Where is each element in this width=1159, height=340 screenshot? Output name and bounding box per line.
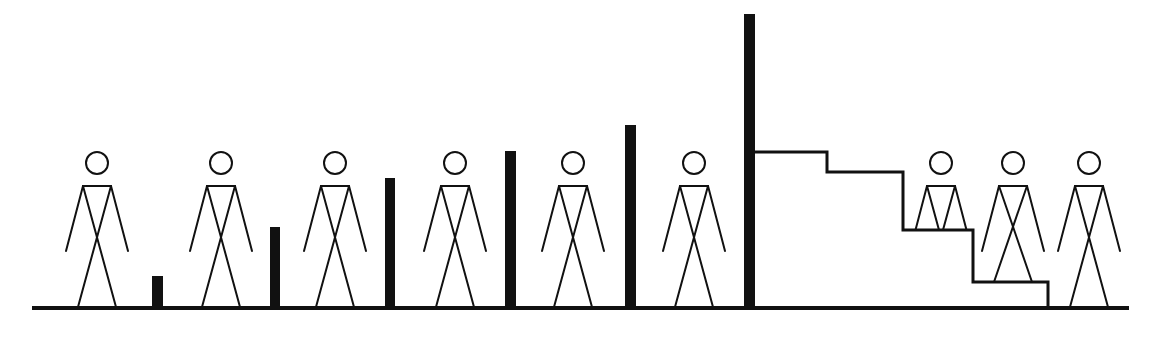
left-arm xyxy=(1058,186,1075,251)
head-icon xyxy=(1078,152,1100,174)
right-arm xyxy=(469,186,486,251)
leg-b xyxy=(436,186,469,307)
left-arm xyxy=(910,186,927,251)
leg-a xyxy=(441,186,474,307)
left-arm xyxy=(190,186,207,251)
left-arm xyxy=(66,186,83,251)
leg-b xyxy=(202,186,235,307)
height-bars xyxy=(152,14,755,308)
right-arm xyxy=(1027,186,1044,251)
right-arm xyxy=(955,186,972,251)
right-arm xyxy=(587,186,604,251)
left-arm xyxy=(304,186,321,251)
leg-a xyxy=(1075,186,1108,307)
left-arm xyxy=(424,186,441,251)
right-arm xyxy=(349,186,366,251)
bar-5 xyxy=(625,125,636,308)
leg-b xyxy=(78,186,111,307)
leg-a xyxy=(559,186,592,307)
head-icon xyxy=(210,152,232,174)
right-arm xyxy=(235,186,252,251)
left-arm xyxy=(663,186,680,251)
leg-a xyxy=(927,186,960,307)
head-icon xyxy=(930,152,952,174)
bar-1 xyxy=(152,276,163,308)
leg-b xyxy=(994,186,1027,282)
left-arm xyxy=(982,186,999,251)
leg-a xyxy=(999,186,1032,282)
left-arm xyxy=(542,186,559,251)
leg-b xyxy=(922,186,955,307)
right-arm xyxy=(708,186,725,251)
leg-a xyxy=(207,186,240,307)
head-icon xyxy=(562,152,584,174)
stick-figure-6 xyxy=(663,152,725,307)
staircase xyxy=(755,152,1048,308)
bar-2 xyxy=(270,227,280,308)
stick-figure-9 xyxy=(1058,152,1120,307)
stick-figure-4 xyxy=(424,152,486,307)
head-icon xyxy=(444,152,466,174)
head-icon xyxy=(1002,152,1024,174)
bar-3 xyxy=(385,178,395,308)
stick-figure-1 xyxy=(66,152,128,307)
leg-b xyxy=(316,186,349,307)
stick-figure-2 xyxy=(190,152,252,307)
leg-b xyxy=(554,186,587,307)
right-arm xyxy=(111,186,128,251)
leg-a xyxy=(83,186,116,307)
stick-figure-5 xyxy=(542,152,604,307)
diagram-stage xyxy=(0,0,1159,340)
head-icon xyxy=(86,152,108,174)
right-arm xyxy=(1103,186,1120,251)
leg-a xyxy=(680,186,713,307)
stick-figure-8 xyxy=(982,152,1044,282)
bar-6 xyxy=(744,14,755,308)
people-and-bars-diagram xyxy=(0,0,1159,340)
bar-4 xyxy=(505,151,516,308)
head-icon xyxy=(324,152,346,174)
staircase-outline xyxy=(755,152,1048,308)
head-icon xyxy=(683,152,705,174)
stick-figure-3 xyxy=(304,152,366,307)
leg-b xyxy=(1070,186,1103,307)
leg-b xyxy=(675,186,708,307)
leg-a xyxy=(321,186,354,307)
